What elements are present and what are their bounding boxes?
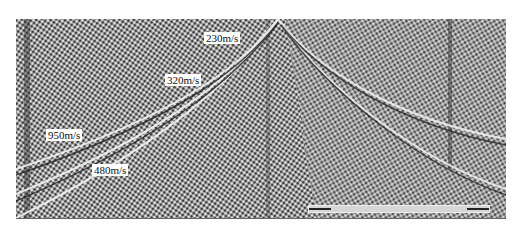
- seismic-texture: [16, 19, 506, 218]
- seismic-figure: 230m/s 320m/s 950m/s 480m/s: [0, 0, 523, 233]
- scale-bar-left-end: [309, 208, 331, 210]
- velocity-label-480: 480m/s: [92, 164, 128, 176]
- velocity-label-950: 950m/s: [46, 129, 82, 141]
- velocity-label-320: 320m/s: [165, 74, 201, 86]
- velocity-label-230: 230m/s: [204, 32, 240, 44]
- seismic-gather-image: [16, 19, 506, 219]
- scale-bar: [308, 205, 490, 213]
- scale-bar-right-end: [467, 208, 489, 210]
